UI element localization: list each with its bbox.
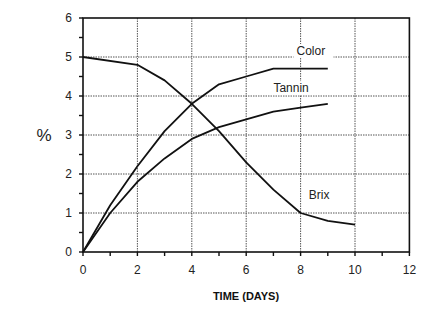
x-tick-label: 12 <box>403 263 417 277</box>
y-tick-label: 3 <box>65 128 72 142</box>
series-label-tannin: Tannin <box>273 81 308 95</box>
axis-ticks: 0246810120123456 <box>65 11 416 277</box>
line-chart: 0246810120123456 BrixColorTannin TIME (D… <box>0 0 438 319</box>
series-label-brix: Brix <box>309 188 330 202</box>
y-tick-label: 1 <box>65 206 72 220</box>
y-tick-label: 0 <box>65 245 72 259</box>
y-tick-label: 5 <box>65 50 72 64</box>
series-labels: BrixColorTannin <box>270 44 339 202</box>
x-tick-label: 8 <box>297 263 304 277</box>
x-tick-label: 4 <box>188 263 195 277</box>
x-tick-label: 0 <box>80 263 87 277</box>
series-tannin-line <box>83 104 328 252</box>
x-axis-title: TIME (DAYS) <box>213 290 280 302</box>
x-tick-label: 6 <box>243 263 250 277</box>
y-tick-label: 4 <box>65 89 72 103</box>
y-tick-label: 6 <box>65 11 72 25</box>
x-tick-label: 10 <box>348 263 362 277</box>
series-label-color: Color <box>297 44 326 58</box>
gridlines <box>83 18 409 252</box>
y-axis-title: % <box>36 126 51 145</box>
y-tick-label: 2 <box>65 167 72 181</box>
x-tick-label: 2 <box>134 263 141 277</box>
